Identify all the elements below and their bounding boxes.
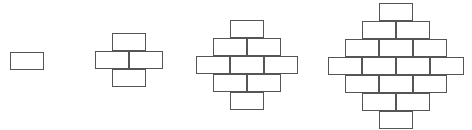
brick-figure-sequence: [0, 0, 472, 130]
brick: [396, 57, 430, 75]
brick: [264, 56, 298, 74]
brick: [213, 38, 247, 56]
brick: [247, 38, 281, 56]
brick: [396, 21, 430, 39]
brick: [112, 33, 146, 51]
brick: [379, 3, 413, 21]
figure-2: [0, 0, 472, 130]
brick: [345, 75, 379, 93]
figure-3: [0, 0, 472, 130]
brick: [112, 69, 146, 87]
brick: [247, 74, 281, 92]
brick: [10, 52, 44, 70]
brick: [396, 93, 430, 111]
brick: [129, 51, 163, 69]
brick: [345, 39, 379, 57]
brick: [328, 57, 362, 75]
brick: [413, 75, 447, 93]
brick: [379, 39, 413, 57]
brick: [379, 111, 413, 129]
brick: [362, 57, 396, 75]
brick: [196, 56, 230, 74]
brick: [230, 56, 264, 74]
brick: [362, 93, 396, 111]
brick: [213, 74, 247, 92]
brick: [413, 39, 447, 57]
brick: [230, 20, 264, 38]
figure-1: [0, 0, 472, 130]
brick: [379, 75, 413, 93]
brick: [362, 21, 396, 39]
brick: [230, 92, 264, 110]
brick: [95, 51, 129, 69]
figure-4: [0, 0, 472, 130]
brick: [430, 57, 464, 75]
